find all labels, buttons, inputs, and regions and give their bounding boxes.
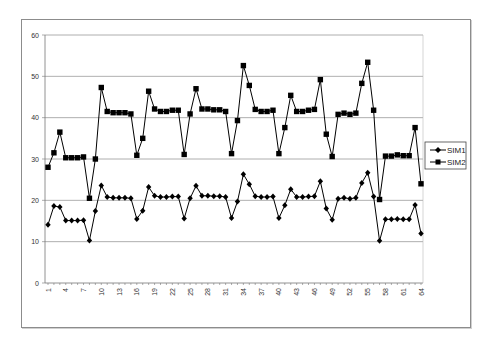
square-marker-icon: [87, 196, 92, 201]
x-tick-label: 34: [240, 288, 247, 296]
square-marker-icon: [176, 108, 181, 113]
square-marker-icon: [406, 153, 411, 158]
x-tick-label: 19: [151, 288, 158, 296]
square-marker-icon: [412, 125, 417, 130]
diamond-marker-icon: [377, 238, 382, 244]
square-marker-icon: [294, 109, 299, 114]
x-tick-label: 58: [382, 288, 389, 296]
square-marker-icon: [318, 77, 323, 82]
square-marker-icon: [229, 151, 234, 156]
square-marker-icon: [306, 108, 311, 113]
square-marker-icon: [353, 110, 358, 115]
square-marker-icon: [199, 106, 204, 111]
diamond-marker-icon: [229, 215, 234, 221]
y-tick-label: 0: [35, 280, 39, 287]
square-marker-icon: [164, 109, 169, 114]
square-marker-icon: [247, 83, 252, 88]
diamond-marker-icon: [87, 237, 92, 243]
square-marker-icon: [377, 197, 382, 202]
square-marker-icon: [93, 156, 98, 161]
square-marker-icon: [258, 109, 263, 114]
square-marker-icon: [116, 110, 121, 115]
diamond-marker-icon: [199, 193, 204, 199]
square-marker-icon: [134, 153, 139, 158]
square-marker-icon: [300, 109, 305, 114]
line-chart: 0102030405060 14710131619222528313437404…: [0, 0, 488, 344]
x-tick-label: 40: [275, 288, 282, 296]
y-tick-label: 30: [31, 156, 39, 163]
y-tick-label: 20: [31, 197, 39, 204]
diamond-marker-icon: [312, 193, 317, 199]
x-tick-label: 13: [116, 288, 123, 296]
square-marker-icon: [335, 112, 340, 117]
square-marker-icon: [45, 165, 50, 170]
series-sim1: [45, 170, 423, 244]
square-marker-icon: [122, 110, 127, 115]
diamond-marker-icon: [300, 194, 305, 200]
y-tick-label: 60: [31, 32, 39, 39]
diamond-marker-icon: [264, 194, 269, 200]
square-marker-icon: [401, 153, 406, 158]
diamond-marker-icon: [205, 193, 210, 199]
series-sim2: [45, 60, 423, 203]
data-series: [45, 60, 423, 244]
x-tick-label: 4: [62, 288, 69, 292]
square-marker-icon: [170, 108, 175, 113]
diamond-marker-icon: [170, 194, 175, 200]
legend-label: SIM2: [447, 158, 466, 167]
diamond-marker-icon: [324, 206, 329, 212]
diamond-marker-icon: [99, 182, 104, 188]
square-marker-icon: [181, 152, 186, 157]
square-marker-icon: [81, 154, 86, 159]
diamond-marker-icon: [329, 217, 334, 223]
square-marker-icon: [312, 107, 317, 112]
diamond-marker-icon: [247, 181, 252, 187]
square-marker-icon: [152, 106, 157, 111]
y-tick-label: 10: [31, 238, 39, 245]
diamond-marker-icon: [282, 202, 287, 208]
diamond-marker-icon: [193, 183, 198, 189]
square-marker-icon: [187, 111, 192, 116]
diamond-marker-icon: [371, 194, 376, 200]
x-tick-label: 46: [311, 288, 318, 296]
diamond-marker-icon: [276, 215, 281, 221]
square-marker-icon: [193, 86, 198, 91]
square-marker-icon: [383, 153, 388, 158]
x-tick-label: 31: [222, 288, 229, 296]
diamond-marker-icon: [105, 194, 110, 200]
square-marker-icon: [75, 155, 80, 160]
diamond-marker-icon: [383, 216, 388, 222]
legend-label: SIM1: [447, 146, 466, 155]
diamond-marker-icon: [241, 171, 246, 177]
x-tick-label: 22: [169, 288, 176, 296]
square-marker-icon: [205, 106, 210, 111]
square-marker-icon: [241, 63, 246, 68]
diamond-marker-icon: [406, 216, 411, 222]
diamond-marker-icon: [176, 194, 181, 200]
x-tick-label: 55: [364, 288, 371, 296]
diamond-marker-icon: [93, 208, 98, 214]
diamond-marker-icon: [412, 202, 417, 208]
x-axis-tick-labels: 1471013161922252831343740434649525558616…: [45, 288, 425, 296]
square-marker-icon: [128, 111, 133, 116]
square-marker-icon: [235, 118, 240, 123]
diamond-marker-icon: [258, 194, 263, 200]
square-marker-icon: [270, 108, 275, 113]
square-marker-icon: [211, 107, 216, 112]
square-marker-icon: [253, 107, 258, 112]
y-tick-label: 50: [31, 73, 39, 80]
square-marker-icon: [110, 110, 115, 115]
x-tick-label: 16: [133, 288, 140, 296]
diamond-marker-icon: [75, 218, 80, 224]
square-marker-icon: [418, 181, 423, 186]
diamond-marker-icon: [45, 222, 50, 228]
series-line: [48, 62, 421, 199]
legend: SIM1 SIM2: [425, 142, 466, 169]
square-marker-icon: [329, 154, 334, 159]
square-marker-icon: [63, 155, 68, 160]
y-axis-tick-labels: 0102030405060: [31, 32, 39, 287]
diamond-marker-icon: [395, 216, 400, 222]
square-marker-icon: [223, 109, 228, 114]
square-marker-icon: [105, 109, 110, 114]
x-tick-label: 25: [187, 288, 194, 296]
